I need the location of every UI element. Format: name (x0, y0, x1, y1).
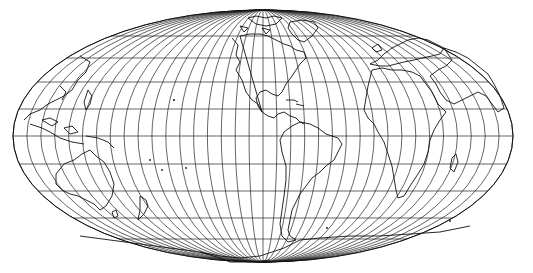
world-map (0, 0, 533, 273)
pacific-island (173, 99, 175, 101)
indonesia-islands (30, 118, 114, 148)
tasmania-coast (112, 210, 118, 218)
asia-coast (430, 48, 504, 112)
pacific-island (185, 167, 187, 169)
greenland-coast (288, 20, 318, 42)
atlantic-island (326, 227, 328, 229)
pacific-island (149, 159, 151, 161)
madagascar-coast (450, 154, 458, 172)
east-asia-coast (24, 56, 90, 120)
caribbean-islands (286, 100, 304, 106)
japan-coast (84, 90, 92, 110)
pacific-island (161, 169, 163, 171)
africa-coast (364, 68, 446, 198)
europe-coast (370, 38, 444, 66)
arctic-islands (240, 16, 282, 34)
north-america-coast (232, 34, 306, 124)
